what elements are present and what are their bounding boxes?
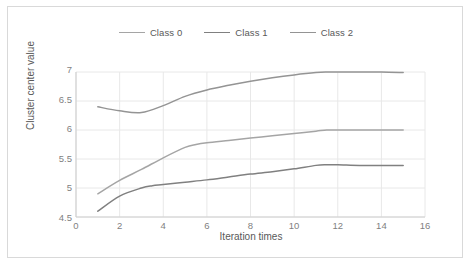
plot-area-wrapper: Cluster center value Iteration times 7 6…: [8, 7, 464, 259]
chart-plot-svg: [8, 7, 464, 259]
grid-lines: [76, 72, 425, 217]
chart-container: Class 0 Class 1 Class 2 Cluster center v…: [7, 6, 463, 258]
